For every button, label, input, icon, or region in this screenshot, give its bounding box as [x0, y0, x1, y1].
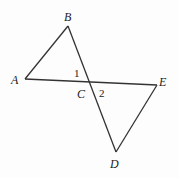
- angle-1-label: 1: [74, 67, 80, 79]
- geometry-diagram: B A E D C 1 2: [0, 0, 179, 178]
- label-a: A: [10, 73, 19, 87]
- segment-ae: [25, 79, 157, 85]
- segment-bd: [68, 26, 116, 152]
- angle-2-label: 2: [99, 87, 105, 99]
- label-b: B: [64, 10, 72, 24]
- label-e: E: [158, 75, 167, 89]
- label-d: D: [109, 157, 119, 171]
- segment-ab: [25, 26, 68, 79]
- label-c: C: [77, 87, 86, 101]
- diagram-svg: B A E D C 1 2: [0, 0, 179, 178]
- segment-ed: [116, 85, 157, 152]
